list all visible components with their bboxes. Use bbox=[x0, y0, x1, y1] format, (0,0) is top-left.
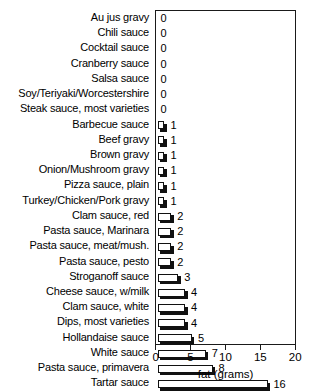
bar-value-label: 0 bbox=[161, 26, 167, 41]
x-axis: fat (grams) 05101520 bbox=[155, 345, 296, 384]
bar-row: 0 bbox=[156, 72, 295, 87]
bar-row: 4 bbox=[156, 300, 295, 315]
category-label: Pasta sauce, Marinara bbox=[0, 223, 152, 238]
bar-row: 4 bbox=[156, 316, 295, 331]
category-label: Cocktail sauce bbox=[0, 40, 152, 55]
bar-row: 0 bbox=[156, 26, 295, 41]
bar-fill bbox=[158, 152, 165, 160]
category-label: Steak sauce, most varieties bbox=[0, 101, 152, 116]
bar-fill bbox=[158, 304, 186, 312]
bar-fill bbox=[158, 289, 186, 297]
bar bbox=[158, 152, 165, 160]
bar-fill bbox=[158, 136, 165, 144]
bar-fill bbox=[158, 319, 186, 327]
bar-value-label: 2 bbox=[177, 255, 183, 270]
category-label: Hollandaise sauce bbox=[0, 330, 152, 345]
bar-row: 2 bbox=[156, 209, 295, 224]
category-label: Tartar sauce bbox=[0, 375, 152, 390]
bar-rows: 00000001111112222344457816 bbox=[156, 11, 295, 344]
bar bbox=[158, 121, 165, 129]
category-label: Pasta sauce, meat/mush. bbox=[0, 238, 152, 253]
category-label: Dips, most varieties bbox=[0, 314, 152, 329]
bar-row: 2 bbox=[156, 255, 295, 270]
bar bbox=[158, 289, 186, 297]
category-label: Turkey/Chicken/Pork gravy bbox=[0, 193, 152, 208]
bar-value-label: 0 bbox=[161, 72, 167, 87]
bar-row: 0 bbox=[156, 102, 295, 117]
bar-row: 0 bbox=[156, 57, 295, 72]
bar-row: 1 bbox=[156, 194, 295, 209]
bar-fill bbox=[158, 182, 165, 190]
bar bbox=[158, 304, 186, 312]
category-label: Cranberry sauce bbox=[0, 56, 152, 71]
bar-row: 1 bbox=[156, 179, 295, 194]
bar-value-label: 4 bbox=[191, 300, 197, 315]
bar-row: 1 bbox=[156, 133, 295, 148]
bar-row: 3 bbox=[156, 270, 295, 285]
category-label: Au jus gravy bbox=[0, 10, 152, 25]
bar-row: 4 bbox=[156, 285, 295, 300]
bar-fill bbox=[158, 274, 179, 282]
x-axis-tick-label: 5 bbox=[187, 351, 193, 363]
x-axis-tick-label: 20 bbox=[289, 351, 302, 363]
category-label: Clam sauce, white bbox=[0, 299, 152, 314]
category-label: White sauce bbox=[0, 345, 152, 360]
bar-fill bbox=[158, 243, 172, 251]
x-axis-tick bbox=[155, 345, 156, 350]
bar-row: 2 bbox=[156, 224, 295, 239]
plot-area: 00000001111112222344457816 bbox=[155, 10, 296, 345]
x-axis-tick bbox=[225, 345, 226, 350]
bar bbox=[158, 243, 172, 251]
category-label-column: Au jus gravyChili sauceCocktail sauceCra… bbox=[0, 10, 152, 390]
bar-value-label: 0 bbox=[161, 57, 167, 72]
bar-row: 5 bbox=[156, 331, 295, 346]
category-label: Pizza sauce, plain bbox=[0, 177, 152, 192]
bar-fill bbox=[158, 121, 165, 129]
category-label: Brown gravy bbox=[0, 147, 152, 162]
bar-value-label: 1 bbox=[170, 163, 176, 178]
bar bbox=[158, 182, 165, 190]
bar-value-label: 3 bbox=[184, 270, 190, 285]
bar-value-label: 2 bbox=[177, 239, 183, 254]
bar-value-label: 1 bbox=[170, 148, 176, 163]
category-label: Onion/Mushroom gravy bbox=[0, 162, 152, 177]
bar bbox=[158, 228, 172, 236]
bar bbox=[158, 334, 192, 342]
bar-value-label: 0 bbox=[161, 87, 167, 102]
x-axis-tick-label: 0 bbox=[152, 351, 158, 363]
bar-value-label: 1 bbox=[170, 179, 176, 194]
bar-fill bbox=[158, 197, 165, 205]
bar-row: 1 bbox=[156, 118, 295, 133]
category-label: Barbecue sauce bbox=[0, 117, 152, 132]
bar-value-label: 2 bbox=[177, 209, 183, 224]
bar-value-label: 1 bbox=[170, 133, 176, 148]
bar-value-label: 0 bbox=[161, 41, 167, 56]
x-axis-tick bbox=[295, 345, 296, 350]
category-label: Stroganoff sauce bbox=[0, 269, 152, 284]
category-label: Beef gravy bbox=[0, 132, 152, 147]
bar-row: 0 bbox=[156, 41, 295, 56]
category-label: Salsa sauce bbox=[0, 71, 152, 86]
bar-row: 1 bbox=[156, 148, 295, 163]
bar-row: 0 bbox=[156, 11, 295, 26]
bar bbox=[158, 136, 165, 144]
bar-value-label: 1 bbox=[170, 194, 176, 209]
bar-fill bbox=[158, 334, 192, 342]
bar-value-label: 1 bbox=[170, 118, 176, 133]
bar bbox=[158, 258, 172, 266]
bar-row: 1 bbox=[156, 163, 295, 178]
category-label: Clam sauce, red bbox=[0, 208, 152, 223]
category-label: Pasta sauce, pesto bbox=[0, 254, 152, 269]
bar bbox=[158, 274, 179, 282]
bar-row: 2 bbox=[156, 239, 295, 254]
bar-value-label: 2 bbox=[177, 224, 183, 239]
bar-value-label: 4 bbox=[191, 316, 197, 331]
bar-fill bbox=[158, 213, 172, 221]
category-label: Soy/Teriyaki/Worcestershire bbox=[0, 86, 152, 101]
x-axis-tick bbox=[190, 345, 191, 350]
bar-value-label: 5 bbox=[198, 331, 204, 346]
category-label: Cheese sauce, w/milk bbox=[0, 284, 152, 299]
bar bbox=[158, 319, 186, 327]
bar bbox=[158, 213, 172, 221]
x-axis-tick bbox=[260, 345, 261, 350]
